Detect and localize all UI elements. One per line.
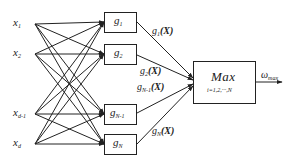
edge-label-g1x: g1(X)	[152, 26, 173, 37]
edge-arg: (X)	[151, 81, 164, 92]
g2-label: g2	[114, 47, 123, 59]
input-sub: 2	[18, 53, 21, 59]
input-sub: 1	[18, 23, 21, 29]
g1-label: g1	[114, 15, 123, 27]
output-label: ωmax	[261, 70, 278, 81]
max-network-diagram: x1 x2 xd-1 xd g1 g2 gN-1 gN g1(X) g2(X) …	[0, 0, 294, 166]
max-subtitle: i=1,2,···,N	[207, 87, 232, 93]
input-label-x2: x2	[13, 47, 21, 59]
function-sub: N-1	[116, 113, 125, 119]
function-sub: 2	[120, 53, 123, 59]
function-boxes	[105, 13, 137, 155]
gN-label: gN	[113, 137, 123, 149]
edge-label-g2x: g2(X)	[140, 66, 161, 77]
input-label-xd: xd	[13, 137, 21, 149]
edge-label-gNx: gN(X)	[152, 126, 174, 137]
edge-label-gN-1x: gN-1(X)	[137, 82, 164, 93]
function-sub: N	[119, 143, 123, 149]
edge-arg: (X)	[148, 65, 161, 76]
edge-arg: (X)	[161, 125, 174, 136]
input-label-xd-1: xd-1	[13, 107, 26, 119]
input-connections	[35, 22, 104, 144]
output-var: ω	[261, 69, 268, 80]
gN-1-label: gN-1	[110, 107, 125, 119]
input-label-x1: x1	[13, 17, 21, 29]
function-sub: 1	[120, 21, 123, 27]
edge-sub: N-1	[142, 87, 151, 93]
output-sub: max	[268, 75, 278, 81]
input-sub: d-1	[18, 113, 26, 119]
edge-arg: (X)	[160, 25, 173, 36]
max-title: Max	[211, 70, 236, 83]
input-sub: d	[18, 143, 21, 149]
